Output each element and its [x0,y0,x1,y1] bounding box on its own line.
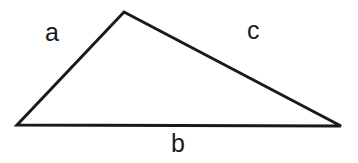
triangle-diagram: a c b [0,0,358,163]
triangle-outline [17,12,341,126]
side-label-c: c [247,18,260,43]
side-label-a: a [45,20,59,45]
side-label-b: b [171,131,185,156]
